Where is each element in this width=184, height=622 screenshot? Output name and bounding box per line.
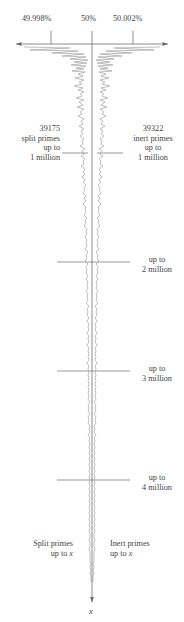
bottom-split-upto: up to: [51, 549, 70, 558]
milestone-4m-upto: up to: [131, 473, 183, 483]
milestone-3m-value: 3 million: [131, 374, 183, 384]
bottom-split-line1: Split primes: [6, 539, 73, 549]
milestone-2m-value: 2 million: [131, 265, 183, 275]
inert-primes-label: inert primes: [124, 134, 182, 144]
bottom-inert-upto: up to: [110, 549, 129, 558]
split-primes-count: 39175: [4, 124, 60, 134]
vertical-axis-label: x: [89, 606, 93, 616]
bottom-split-var: x: [69, 549, 73, 558]
bottom-label-split-primes: Split primes up to x: [6, 539, 73, 558]
inert-primes-count: 39322: [124, 124, 182, 134]
annotation-milestone-3-million: up to 3 million: [131, 364, 183, 383]
leader-lines-group: [57, 153, 130, 480]
bottom-split-line2: up to x: [6, 549, 73, 559]
split-primes-label: split primes: [4, 134, 60, 144]
tick-label-50: 50%: [81, 14, 96, 24]
tick-label-49998: 49.998%: [22, 14, 51, 24]
primes-race-figure: [0, 0, 184, 622]
annotation-split-primes-1-million: 39175 split primes up to 1 million: [4, 124, 60, 163]
split-primes-upto: up to: [4, 143, 60, 153]
bottom-inert-line2: up to x: [110, 549, 182, 559]
top-axis-right-arrow-icon: [163, 42, 169, 46]
split-primes-milestone: 1 million: [4, 153, 60, 163]
top-axis-left-arrow-icon: [16, 42, 22, 46]
vertical-axis-arrow-icon: [90, 597, 94, 603]
inert-primes-milestone: 1 million: [124, 153, 182, 163]
milestone-4m-value: 4 million: [131, 483, 183, 493]
vertical-axis-group: [90, 31, 94, 603]
bottom-inert-var: x: [129, 549, 133, 558]
milestone-3m-upto: up to: [131, 364, 183, 374]
annotation-inert-primes-1-million: 39322 inert primes up to 1 million: [124, 124, 182, 163]
bottom-inert-line1: Inert primes: [110, 539, 182, 549]
annotation-milestone-2-million: up to 2 million: [131, 255, 183, 274]
tick-label-50002: 50.002%: [113, 14, 142, 24]
milestone-2m-upto: up to: [131, 255, 183, 265]
inert-primes-upto: up to: [124, 143, 182, 153]
annotation-milestone-4-million: up to 4 million: [131, 473, 183, 492]
bottom-label-inert-primes: Inert primes up to x: [110, 539, 182, 558]
